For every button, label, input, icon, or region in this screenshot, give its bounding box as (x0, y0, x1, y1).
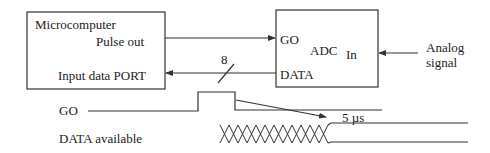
pulse-out-label: Pulse out (96, 34, 144, 49)
analog-label-line2: signal (426, 55, 457, 70)
timing-data-label: DATA available (59, 131, 142, 146)
microcomputer-block: Microcomputer Pulse out Input data PORT (27, 12, 165, 89)
data-valid-low (328, 142, 468, 143)
adc-block: GO ADC In DATA (276, 10, 378, 87)
adc-interface-diagram: Microcomputer Pulse out Input data PORT … (0, 0, 490, 153)
microcomputer-title: Microcomputer (35, 17, 117, 32)
analog-label-line1: Analog (426, 40, 465, 55)
adc-in-label: In (346, 47, 357, 62)
adc-title: ADC (310, 43, 337, 58)
go-waveform (88, 92, 382, 111)
adc-data-label: DATA (280, 67, 314, 82)
timing-go-label: GO (59, 103, 78, 118)
input-data-port-label: Input data PORT (58, 68, 146, 83)
bus-width-label: 8 (221, 52, 228, 67)
data-invalid-crosshatch (220, 125, 328, 143)
delay-arrow (236, 100, 326, 117)
adc-go-label: GO (280, 32, 299, 47)
